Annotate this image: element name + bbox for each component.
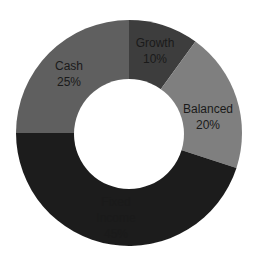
- label-growth-value: 10%: [143, 52, 167, 66]
- label-fixed-income-value: 45%: [104, 227, 128, 241]
- donut-chart: Growth 10% Balanced 20% Fixed Income 45%…: [0, 0, 256, 263]
- label-growth-name: Growth: [136, 36, 175, 50]
- label-balanced-name: Balanced: [183, 102, 233, 116]
- label-cash-value: 25%: [57, 75, 81, 89]
- label-cash-name: Cash: [55, 59, 83, 73]
- label-fixed-income-name-1: Fixed: [101, 195, 130, 209]
- label-balanced-value: 20%: [196, 118, 220, 132]
- donut-hole: [74, 79, 184, 189]
- label-fixed-income-name-2: Income: [96, 211, 136, 225]
